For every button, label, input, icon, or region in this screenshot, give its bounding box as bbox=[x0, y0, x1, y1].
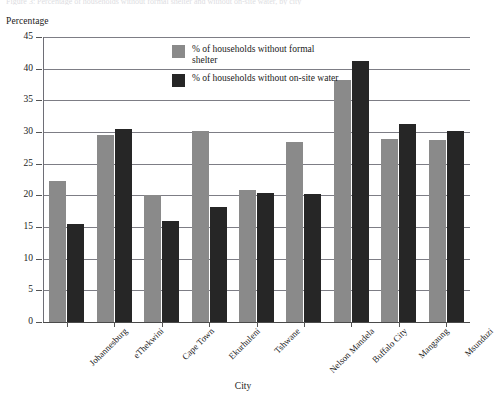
bar bbox=[381, 139, 398, 322]
x-axis-title: City bbox=[0, 381, 486, 391]
y-axis-tick-label: 10 bbox=[24, 254, 34, 264]
bar bbox=[144, 195, 161, 322]
bar bbox=[115, 129, 132, 322]
bar bbox=[257, 193, 274, 322]
x-axis-category-label: Tshwane bbox=[272, 326, 302, 356]
x-axis-tick bbox=[114, 322, 115, 327]
x-axis-category-label: eThekwini bbox=[131, 326, 165, 360]
x-axis-tick bbox=[351, 322, 352, 327]
y-axis-tick bbox=[36, 132, 42, 133]
y-axis-tick-label: 20 bbox=[24, 190, 34, 200]
bar bbox=[97, 135, 114, 322]
y-axis-tick bbox=[36, 290, 42, 291]
x-axis-category-label: Nelson Mandela bbox=[327, 326, 376, 375]
x-axis-category-label: Ekurhuleni bbox=[227, 326, 262, 361]
x-axis-category-label: Cape Town bbox=[180, 326, 216, 362]
gridline bbox=[43, 37, 470, 38]
y-axis-tick-label: 0 bbox=[28, 317, 33, 327]
x-axis-category-label: Msunduzi bbox=[463, 326, 495, 359]
legend-swatch-water bbox=[172, 74, 185, 87]
y-axis-tick bbox=[36, 100, 42, 101]
bar bbox=[399, 124, 416, 322]
x-axis-category-label: Johannesburg bbox=[87, 326, 129, 368]
y-axis-tick-label: 35 bbox=[24, 95, 34, 105]
x-axis-tick bbox=[67, 322, 68, 327]
y-axis-tick-label: 40 bbox=[24, 64, 34, 74]
legend-item-shelter: % of households without formal shelter bbox=[172, 44, 342, 66]
legend-item-water: % of households without on-site water bbox=[172, 73, 342, 87]
legend-label-shelter: % of households without formal shelter bbox=[192, 44, 342, 66]
bar bbox=[239, 190, 256, 322]
y-axis-tick bbox=[36, 164, 42, 165]
bar bbox=[162, 221, 179, 322]
y-axis-tick bbox=[36, 69, 42, 70]
bar bbox=[210, 207, 227, 322]
y-axis-tick bbox=[36, 227, 42, 228]
bar bbox=[447, 131, 464, 322]
y-axis-tick-label: 15 bbox=[24, 222, 34, 232]
y-axis-title: Percentage bbox=[6, 16, 49, 26]
bar bbox=[49, 181, 66, 322]
y-axis-tick-label: 5 bbox=[28, 285, 33, 295]
y-axis-tick-label: 25 bbox=[24, 159, 34, 169]
x-axis-tick bbox=[162, 322, 163, 327]
y-axis-line bbox=[43, 37, 44, 322]
x-axis-tick bbox=[257, 322, 258, 327]
bar bbox=[67, 224, 84, 322]
x-axis-category-label: Mangaung bbox=[416, 326, 450, 360]
y-axis-tick bbox=[36, 195, 42, 196]
y-axis-tick bbox=[36, 322, 42, 323]
figure-caption-cutoff: Figure 3: Percentage of households witho… bbox=[6, 0, 480, 5]
bar bbox=[334, 80, 351, 322]
y-axis-tick bbox=[36, 259, 42, 260]
x-axis-category-label: Buffalo City bbox=[371, 326, 410, 365]
legend-swatch-shelter bbox=[172, 45, 185, 58]
y-axis-tick-label: 45 bbox=[24, 32, 34, 42]
legend: % of households without formal shelter %… bbox=[172, 44, 342, 94]
gridline bbox=[43, 100, 470, 101]
bar bbox=[192, 131, 209, 322]
x-axis-tick bbox=[399, 322, 400, 327]
y-axis-tick-label: 30 bbox=[24, 127, 34, 137]
bar bbox=[429, 140, 446, 322]
x-axis-tick bbox=[446, 322, 447, 327]
y-axis-tick bbox=[36, 37, 42, 38]
bar bbox=[352, 61, 369, 322]
bar bbox=[286, 142, 303, 322]
x-axis-tick bbox=[304, 322, 305, 327]
bar bbox=[304, 194, 321, 322]
legend-label-water: % of households without on-site water bbox=[192, 73, 338, 84]
